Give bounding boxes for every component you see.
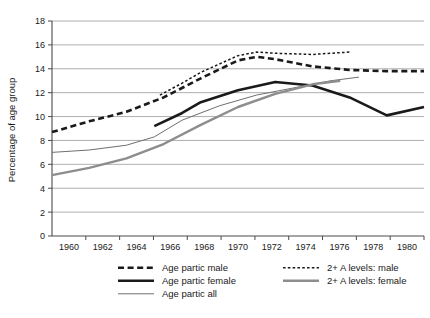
x-tick-label: 1972	[262, 242, 282, 252]
x-tick-label: 1962	[93, 242, 113, 252]
legend-label: Age partic all	[162, 288, 217, 299]
x-tick-label: 1980	[397, 242, 417, 252]
x-axis-tick-labels: 1960196219641966196819701972197419761978…	[59, 242, 417, 252]
data-series-group	[52, 52, 424, 175]
series-line	[52, 77, 359, 152]
chart-figure: Percentage of age group 024681012141618 …	[0, 0, 430, 318]
x-tick-label: 1978	[363, 242, 383, 252]
x-tick-label: 1976	[329, 242, 349, 252]
y-tick-label: 2	[40, 208, 45, 218]
series-line	[52, 57, 424, 132]
y-tick-label: 6	[40, 160, 45, 170]
x-tick-label: 1970	[228, 242, 248, 252]
y-tick-label: 18	[35, 16, 45, 26]
series-line	[52, 81, 340, 175]
y-tick-label: 12	[35, 88, 45, 98]
x-tick-label: 1964	[127, 242, 147, 252]
x-tick-label: 1960	[59, 242, 79, 252]
legend-label: Age partic male	[162, 262, 228, 273]
legend-label: 2+ A levels: female	[327, 275, 406, 286]
y-tick-label: 4	[40, 184, 45, 194]
y-axis-tick-labels: 024681012141618	[35, 16, 45, 241]
y-tick-label: 8	[40, 136, 45, 146]
y-axis-title: Percentage of age group	[6, 78, 17, 183]
line-chart: Percentage of age group 024681012141618 …	[0, 0, 430, 318]
x-tick-label: 1966	[160, 242, 180, 252]
x-tick-label: 1968	[194, 242, 214, 252]
axis-tickmarks	[48, 21, 424, 240]
y-tick-label: 0	[40, 231, 45, 241]
legend-label: 2+ A levels: male	[327, 262, 399, 273]
chart-legend: Age partic male2+ A levels: maleAge part…	[118, 262, 406, 299]
x-tick-label: 1974	[296, 242, 316, 252]
y-tick-label: 10	[35, 112, 45, 122]
y-tick-label: 14	[35, 64, 45, 74]
legend-label: Age partic female	[162, 275, 236, 286]
y-tick-label: 16	[35, 40, 45, 50]
